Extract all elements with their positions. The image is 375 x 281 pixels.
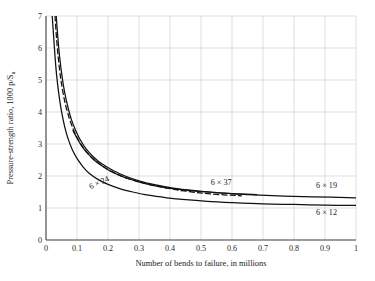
x-tick-label: 0.2 bbox=[103, 244, 113, 253]
y-tick-label: 3 bbox=[38, 140, 42, 149]
y-axis-title-text: Pressure-strength ratio, 1000 p/S bbox=[6, 74, 15, 184]
y-tick-label: 1 bbox=[38, 204, 42, 213]
x-tick-label: 0.4 bbox=[165, 244, 175, 253]
curve-label-6x37: 6 × 37 bbox=[211, 178, 232, 187]
x-tick-label: 0.1 bbox=[72, 244, 82, 253]
curve-label-6x12: 6 × 12 bbox=[316, 208, 337, 217]
y-tick-label: 7 bbox=[38, 12, 42, 21]
x-tick-label: 0.8 bbox=[289, 244, 299, 253]
x-tick-label: 0.5 bbox=[196, 244, 206, 253]
x-axis-title: Number of bends to failure, in millions bbox=[136, 259, 267, 268]
x-tick-label: 0.3 bbox=[134, 244, 144, 253]
y-tick-label: 2 bbox=[38, 172, 42, 181]
y-tick-label: 4 bbox=[38, 108, 42, 117]
y-tick-label: 6 bbox=[38, 44, 42, 53]
x-tick-label: 0 bbox=[44, 244, 48, 253]
curve-label-6x19: 6 × 19 bbox=[316, 181, 337, 190]
x-tick-label: 0.9 bbox=[320, 244, 330, 253]
y-tick-label: 5 bbox=[38, 76, 42, 85]
y-axis-title: Pressure-strength ratio, 1000 p/Su bbox=[6, 72, 16, 185]
y-axis-title-subscript: u bbox=[10, 72, 16, 75]
pressure-strength-ratio-chart: 00.10.20.30.40.50.60.70.80.9101234567 6 … bbox=[0, 0, 375, 281]
x-tick-label: 0.6 bbox=[227, 244, 237, 253]
chart-figure: 00.10.20.30.40.50.60.70.80.9101234567 6 … bbox=[0, 0, 375, 281]
y-tick-label: 0 bbox=[38, 236, 42, 245]
x-tick-label: 0.7 bbox=[258, 244, 268, 253]
x-tick-label: 1 bbox=[354, 244, 358, 253]
